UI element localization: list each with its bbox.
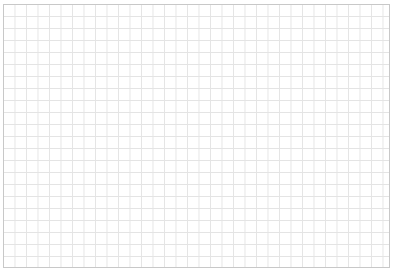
grid-canvas: [3, 4, 390, 268]
